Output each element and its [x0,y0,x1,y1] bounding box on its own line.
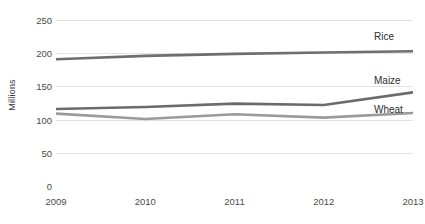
y-tick-label: 200 [22,48,52,59]
x-tick-label: 2009 [45,196,66,207]
series-label-maize: Maize [374,75,401,86]
y-axis-title-label: Millions [7,79,17,111]
series-lines [56,20,413,186]
y-tick-label: 150 [22,81,52,92]
x-tick-label: 2011 [224,196,244,207]
series-label-rice: Rice [374,31,394,42]
x-tick-label: 2013 [402,196,423,207]
y-axis-tick-labels: 050100150200250 [18,0,52,224]
y-tick-label: 50 [22,147,52,158]
y-tick-label: 250 [22,15,52,26]
x-tick-label: 2012 [313,196,334,207]
y-tick-label: 100 [22,114,52,125]
x-tick-label: 2010 [135,196,156,207]
series-label-wheat: Wheat [374,104,403,115]
x-axis-tick-labels: 20092010201120122013 [0,196,425,216]
plot-area [56,20,413,186]
y-tick-label: 0 [22,181,52,192]
line-chart: Millions 050100150200250 200920102011201… [0,0,425,224]
